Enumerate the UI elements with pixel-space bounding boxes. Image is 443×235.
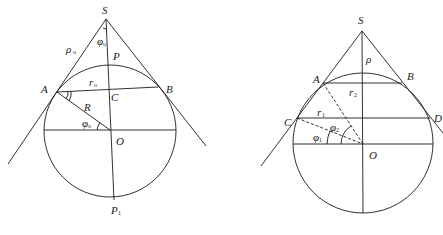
left-chord-ab [57,87,158,92]
label-left-r: R [83,101,91,113]
svg-text:2: 2 [354,92,357,98]
svg-text:2: 2 [336,127,339,133]
svg-text:1: 1 [118,210,121,216]
label-right-b: B [407,70,414,82]
svg-text:1: 1 [322,112,325,118]
svg-text:o: o [103,41,106,47]
right-angle-arc-phi2 [341,126,351,144]
left-figure: S ρ o φ o P A B r o C R φ o O P 1 [8,4,206,216]
diagram-canvas: S ρ o φ o P A B r o C R φ o O P 1 S ρ A … [0,0,443,235]
left-angle-arc-a-2 [69,91,71,101]
left-tangent-line-a [8,19,106,164]
label-right-c: C [284,116,292,128]
label-left-o: O [116,135,124,147]
right-axis-line [362,31,363,213]
label-right-a: A [312,73,320,85]
left-tangent-line-b [106,19,206,146]
svg-text:1: 1 [319,137,322,143]
left-angle-arc-o [97,123,100,130]
label-left-c: C [111,91,119,103]
label-right-d: D [433,112,442,124]
left-axis-line [106,19,114,200]
left-sphere-circle [44,65,176,197]
svg-text:o: o [94,82,97,88]
label-left-s: S [102,4,108,16]
svg-text:o: o [88,123,91,129]
right-figure: S ρ A B r 2 r 1 C D φ 2 φ 1 O [261,14,443,213]
label-right-s: S [358,14,364,26]
left-angle-arc-a-1 [66,91,68,99]
label-left-a: A [40,83,48,95]
svg-text:o: o [73,49,76,55]
right-tangent-line-a [261,31,362,166]
label-left-p1: P [110,204,118,216]
label-right-rho: ρ [365,53,371,65]
label-right-o: O [369,149,377,161]
label-left-b: B [166,83,173,95]
label-left-rho0: ρ [65,43,71,55]
label-left-p: P [112,50,120,62]
